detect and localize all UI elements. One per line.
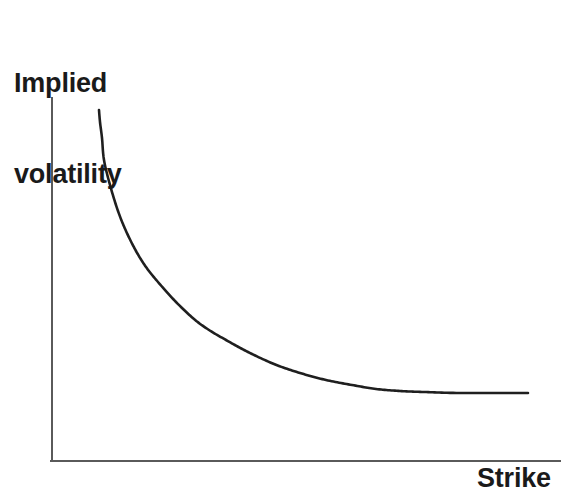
y-axis-title-line-1: Implied [14,68,122,98]
y-axis-title: Implied volatility [14,8,122,250]
implied-volatility-skew-figure: Implied volatility Strike [0,0,577,503]
implied-volatility-curve [99,110,528,393]
x-axis-title: Strike [477,463,551,493]
y-axis-title-line-2: volatility [14,159,122,189]
